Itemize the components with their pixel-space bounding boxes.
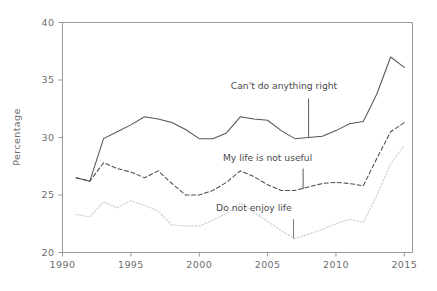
x-tick-label-1990: 1990	[50, 259, 76, 270]
axis-ticks	[59, 23, 405, 257]
x-tick-label-2005: 2005	[255, 259, 281, 270]
x-tick-label-2010: 2010	[323, 259, 349, 270]
y-axis-title: Percentage	[11, 108, 22, 165]
x-tick-label-2015: 2015	[391, 259, 417, 270]
y-tick-label-25: 25	[42, 189, 55, 200]
annotation-label-0: Can't do anything right	[231, 80, 338, 91]
chart-figure: 2025303540199019952000200520102015 Can't…	[0, 0, 437, 291]
y-tick-label-20: 20	[42, 247, 55, 258]
y-tick-label-40: 40	[42, 17, 55, 28]
y-tick-label-30: 30	[42, 132, 55, 143]
series-line-0	[76, 57, 404, 181]
line-chart: 2025303540199019952000200520102015 Can't…	[0, 0, 437, 291]
x-tick-label-1995: 1995	[118, 259, 144, 270]
annotation-label-2: Do not enjoy life	[216, 202, 292, 213]
plot-frame	[63, 23, 413, 253]
axis-tick-labels: 2025303540199019952000200520102015	[42, 17, 418, 270]
y-tick-label-35: 35	[42, 74, 55, 85]
axes	[63, 23, 413, 253]
series-annotations: Can't do anything rightMy life is not us…	[216, 80, 337, 239]
x-tick-label-2000: 2000	[186, 259, 212, 270]
annotation-label-1: My life is not useful	[223, 152, 312, 163]
